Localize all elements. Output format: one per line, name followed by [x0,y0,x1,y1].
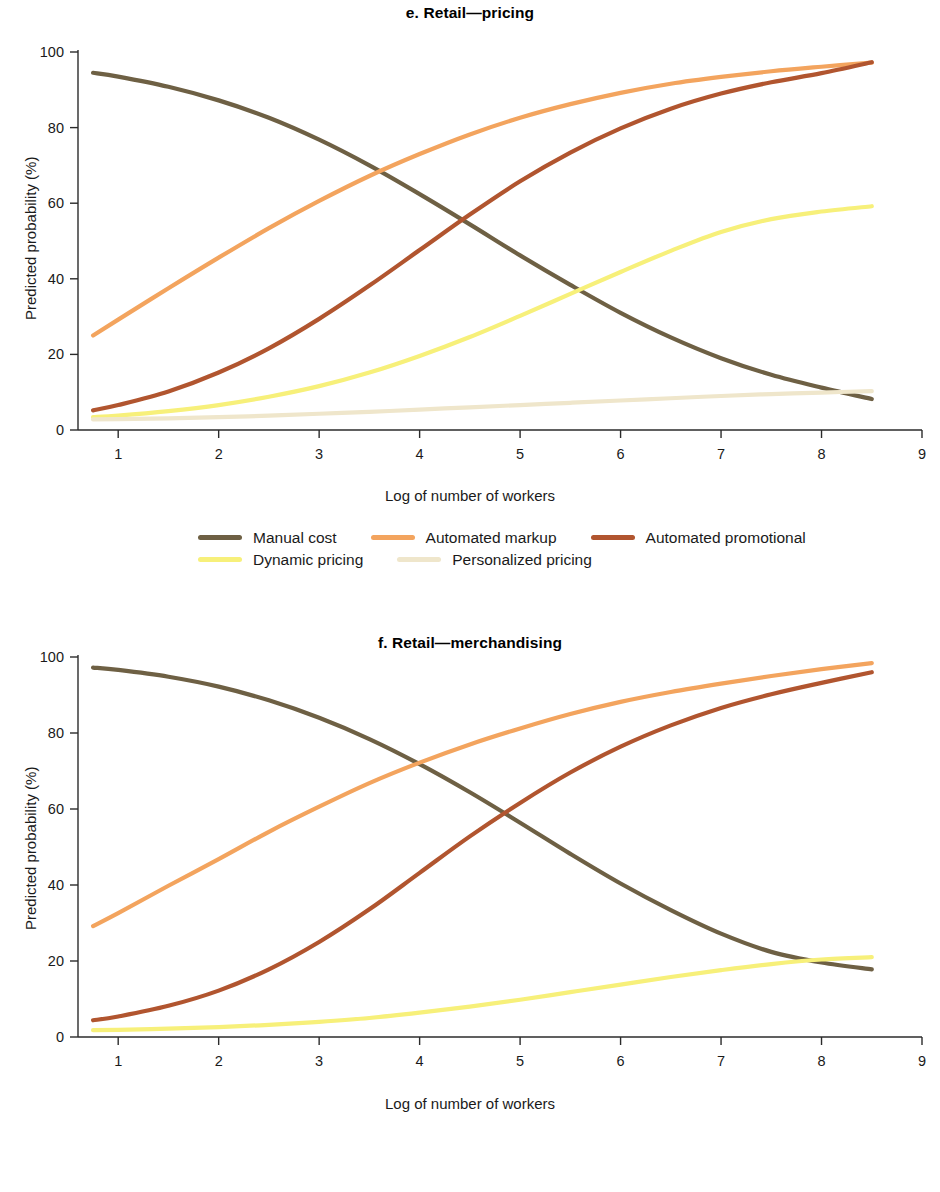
y-tick-label: 80 [48,725,64,741]
x-tick-label: 1 [114,1053,122,1069]
y-tick-label: 0 [56,422,64,438]
plot-area-e: 020406080100123456789 [0,0,940,600]
legend-row: Manual costAutomated markupAutomated pro… [198,530,940,546]
legend-e: Manual costAutomated markupAutomated pro… [0,530,940,573]
legend-label: Dynamic pricing [253,552,363,568]
legend-swatch-icon [198,557,242,562]
legend-row: Dynamic pricingPersonalized pricing [198,552,940,568]
series-line [93,206,872,417]
x-tick-label: 9 [918,446,926,462]
x-tick-label: 8 [817,446,825,462]
x-tick-label: 5 [516,1053,524,1069]
x-tick-label: 7 [717,1053,725,1069]
legend-item[interactable]: Manual cost [198,530,337,546]
y-tick-label: 100 [40,649,64,665]
legend-item[interactable]: Dynamic pricing [198,552,363,568]
x-tick-label: 4 [416,1053,424,1069]
series-line [93,663,872,926]
x-tick-label: 5 [516,446,524,462]
x-tick-label: 3 [315,446,323,462]
x-tick-label: 6 [617,1053,625,1069]
legend-item[interactable]: Automated promotional [591,530,806,546]
x-tick-label: 3 [315,1053,323,1069]
y-axis-label-e: Predicted probability (%) [22,157,39,320]
panel-retail-merchandising: f. Retail—merchandising 0204060801001234… [0,600,940,1192]
legend-swatch-icon [591,535,635,540]
series-line [93,672,872,1020]
x-axis-label-f: Log of number of workers [0,1095,940,1112]
y-tick-label: 40 [48,271,64,287]
chart-svg-e: 020406080100123456789 [0,0,940,520]
x-tick-label: 9 [918,1053,926,1069]
legend-label: Automated markup [426,530,557,546]
series-line [93,73,872,399]
series-line [93,62,872,410]
x-tick-label: 7 [717,446,725,462]
y-tick-label: 60 [48,801,64,817]
legend-label: Personalized pricing [452,552,592,568]
legend-swatch-icon [198,535,242,540]
legend-item[interactable]: Personalized pricing [397,552,592,568]
x-tick-label: 6 [617,446,625,462]
x-tick-label: 4 [416,446,424,462]
legend-swatch-icon [371,535,415,540]
legend-label: Automated promotional [646,530,806,546]
y-tick-label: 100 [40,44,64,60]
x-axis-label-e: Log of number of workers [0,487,940,504]
series-line [93,63,872,336]
y-tick-label: 0 [56,1029,64,1045]
y-tick-label: 20 [48,346,64,362]
legend-item[interactable]: Automated markup [371,530,557,546]
y-tick-label: 80 [48,120,64,136]
y-axis-label-f: Predicted probability (%) [22,767,39,930]
legend-swatch-icon [397,557,441,562]
chart-svg-f: 020406080100123456789 [0,600,940,1070]
y-tick-label: 60 [48,195,64,211]
x-tick-label: 8 [817,1053,825,1069]
legend-label: Manual cost [253,530,337,546]
series-line [93,668,872,970]
x-tick-label: 2 [215,446,223,462]
x-tick-label: 1 [114,446,122,462]
panel-retail-pricing: e. Retail—pricing 020406080100123456789 … [0,0,940,600]
x-tick-label: 2 [215,1053,223,1069]
y-tick-label: 40 [48,877,64,893]
y-tick-label: 20 [48,953,64,969]
